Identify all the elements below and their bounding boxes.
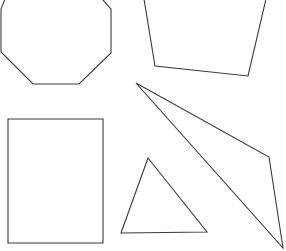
small-triangle-shape (121, 158, 207, 233)
obtuse-triangle-shape (136, 83, 283, 248)
rectangle-shape (8, 119, 103, 243)
quadrilateral-shape (144, 0, 266, 76)
shapes-canvas (0, 0, 286, 251)
octagon-shape (1, 0, 111, 84)
